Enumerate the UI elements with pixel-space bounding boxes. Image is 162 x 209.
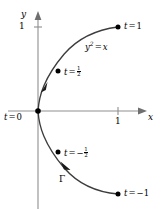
curve-name-label: Γ bbox=[59, 175, 65, 184]
point-marker-t-equals-0 bbox=[35, 108, 41, 114]
x-axis-label: x bbox=[148, 113, 153, 122]
equals-sign: = bbox=[127, 21, 136, 31]
fraction-denominator: 2 bbox=[84, 152, 89, 159]
point-marker-t-equals-neg-one-half bbox=[56, 150, 61, 155]
point-marker-t-equals-neg-1 bbox=[116, 192, 121, 197]
label-t-equals-0: t=0 bbox=[4, 113, 22, 122]
fraction-one-half: 12 bbox=[84, 147, 89, 160]
equals-sign: = bbox=[67, 67, 76, 77]
point-marker-t-equals-1 bbox=[116, 25, 121, 30]
equals-sign: = bbox=[7, 112, 16, 122]
point-marker-t-equals-one-half bbox=[56, 69, 61, 74]
y-axis-tick-label-1: 1 bbox=[19, 22, 25, 31]
fraction-one-half: 12 bbox=[77, 66, 82, 79]
equals-sign: = bbox=[127, 188, 136, 198]
fraction-denominator: 2 bbox=[77, 71, 82, 78]
label-t-equals-neg-1: t=−1 bbox=[124, 189, 149, 198]
figure-canvas bbox=[0, 0, 162, 209]
label-t-equals-neg-one-half: t=−12 bbox=[64, 147, 88, 160]
minus-sign: − bbox=[77, 148, 84, 158]
curve-equation-label: y2=x bbox=[85, 41, 108, 51]
label-t-equals-1: t=1 bbox=[124, 22, 142, 31]
y-axis-arrowhead bbox=[35, 11, 42, 20]
y-axis-label: y bbox=[21, 10, 26, 19]
equals-sign: = bbox=[67, 148, 76, 158]
x-axis-tick-label-1: 1 bbox=[115, 117, 121, 126]
parabola-figure: y x 1 1 y2=x Γ t=1 t=12 t=0 t=−12 t=−1 bbox=[0, 0, 162, 209]
curve-equation-x: x bbox=[103, 42, 108, 52]
t-value: 0 bbox=[17, 112, 22, 122]
minus-sign: − bbox=[137, 188, 144, 198]
label-t-equals-one-half: t=12 bbox=[64, 66, 81, 79]
t-value: 1 bbox=[137, 21, 142, 31]
x-axis-arrowhead bbox=[138, 108, 147, 115]
t-value: 1 bbox=[144, 188, 149, 198]
curve-equation-equals: = bbox=[94, 42, 103, 52]
